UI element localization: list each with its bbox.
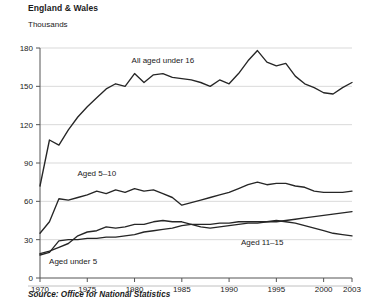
series-line xyxy=(40,221,352,254)
y-tick-label: 150 xyxy=(20,82,34,91)
y-tick-label: 180 xyxy=(20,44,34,53)
y-tick-label: 60 xyxy=(24,197,33,206)
line-chart-plot: 0306090120150180197019751980198519901995… xyxy=(0,0,365,306)
series-line xyxy=(40,51,352,186)
series-line xyxy=(40,212,352,255)
series-annotation-label: Aged 11–15 xyxy=(241,238,284,247)
y-tick-label: 0 xyxy=(29,274,34,283)
figure-container: England & Wales Thousands 03060901201501… xyxy=(0,0,365,306)
y-tick-label: 90 xyxy=(24,159,33,168)
series-annotation-label: Aged under 5 xyxy=(49,257,98,266)
series-annotation-label: All aged under 16 xyxy=(132,56,195,65)
source-note: Source: Office for National Statistics xyxy=(28,290,170,299)
series-annotation-label: Aged 5–10 xyxy=(77,169,116,178)
y-tick-label: 30 xyxy=(24,236,33,245)
y-tick-label: 120 xyxy=(20,121,34,130)
